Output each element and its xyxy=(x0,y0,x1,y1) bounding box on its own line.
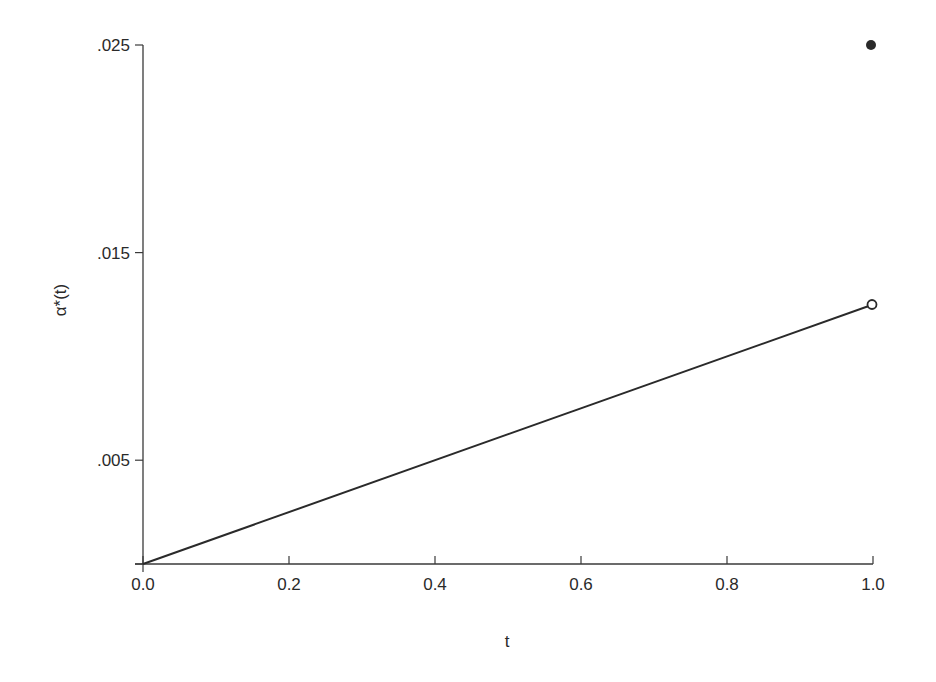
x-axis: 0.00.20.40.60.81.0 xyxy=(131,556,885,594)
series-line xyxy=(143,305,873,565)
x-axis-label: t xyxy=(505,632,510,651)
chart: .005.015.025 0.00.20.40.60.81.0 t α*(t) xyxy=(0,0,936,682)
open-circle-marker xyxy=(868,300,877,309)
x-tick-label: 0.2 xyxy=(277,575,301,594)
y-axis-label: α*(t) xyxy=(51,284,70,317)
x-tick-label: 0.8 xyxy=(715,575,739,594)
data-series xyxy=(143,305,873,565)
x-tick-label: 0.6 xyxy=(569,575,593,594)
filled-circle-marker xyxy=(866,40,876,50)
endpoint-markers xyxy=(866,40,877,309)
x-tick-label: 0.0 xyxy=(131,575,155,594)
y-tick-label: .015 xyxy=(97,244,130,263)
y-tick-label: .005 xyxy=(97,451,130,470)
y-axis: .005.015.025 xyxy=(97,36,143,564)
y-tick-label: .025 xyxy=(97,36,130,55)
x-tick-label: 1.0 xyxy=(861,575,885,594)
x-tick-label: 0.4 xyxy=(423,575,447,594)
